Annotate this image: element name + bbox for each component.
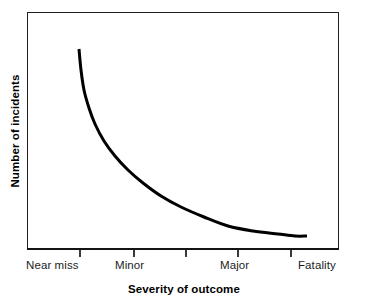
x-tick-label-minor: Minor <box>115 259 144 271</box>
x-axis-title: Severity of outcome <box>0 283 368 295</box>
x-axis-tick-5 <box>290 250 292 257</box>
x-tick-label-major: Major <box>220 259 249 271</box>
x-tick-label-near-miss: Near miss <box>26 259 79 271</box>
x-axis-tick-2 <box>133 250 135 257</box>
x-tick-label-fatality: Fatality <box>298 259 336 271</box>
y-axis-title: Number of incidents <box>4 12 26 250</box>
curve-path <box>79 49 307 236</box>
x-axis-tick-3 <box>185 250 187 257</box>
chart-figure: Number of incidents Near miss Minor Majo… <box>0 0 368 306</box>
x-axis-tick-4 <box>237 250 239 257</box>
incident-severity-curve <box>27 12 339 250</box>
x-axis-tick-1 <box>79 250 81 257</box>
